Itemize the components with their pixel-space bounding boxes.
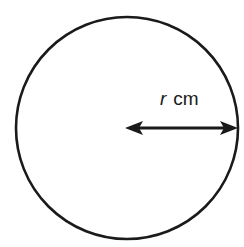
radius-unit: cm bbox=[173, 88, 198, 109]
radius-variable: r bbox=[160, 88, 166, 109]
radius-label: rcm bbox=[160, 89, 199, 109]
radius-arrow bbox=[125, 121, 238, 135]
circle-diagram bbox=[0, 0, 244, 247]
